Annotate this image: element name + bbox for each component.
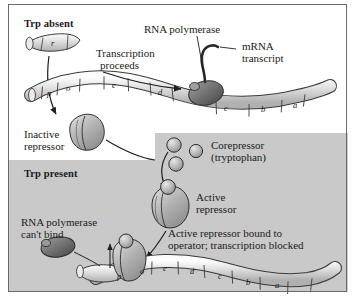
- gene-label-top-e: e: [112, 80, 116, 90]
- active-repressor-label-line2: repressor: [196, 204, 236, 216]
- gene-label-bottom-e: e: [163, 263, 167, 273]
- leader-mrna-label: [220, 47, 236, 49]
- transcription-proceeds-label-line2: proceeds: [100, 60, 139, 72]
- mrna-transcript-label-line1: mRNA: [242, 41, 274, 53]
- gene-label-bottom-a: a: [275, 280, 279, 290]
- figure-canvas: Trp absent Transcription proceeds RNA po…: [0, 0, 356, 307]
- line-inactive-repressor-to-corepressor: [106, 140, 155, 160]
- bound-note-line1: Active repressor bound to: [168, 228, 282, 240]
- corepressor-molecules: [167, 138, 203, 171]
- gene-label-bottom-d: d: [190, 266, 194, 276]
- leader-polymerase-label: [197, 36, 205, 80]
- bound-note-line2: operator; transcription blocked: [168, 240, 304, 252]
- gene-label-bottom-o: o: [140, 266, 144, 276]
- inactive-repressor-shape: [70, 114, 104, 150]
- gene-label-regulatory-r: r: [51, 38, 54, 48]
- dna-strand-top: [29, 76, 330, 116]
- arrow-active-repressor-to-operator: [146, 231, 166, 258]
- gene-label-bottom-p: p: [117, 271, 121, 281]
- gene-label-top-b: b: [261, 104, 265, 114]
- gene-label-bottom-b: b: [246, 277, 250, 287]
- trp-absent-header: Trp absent: [24, 18, 74, 29]
- corepressor-label-line2: (tryptophan): [211, 152, 266, 164]
- gene-label-top-a: a: [293, 100, 297, 110]
- gene-label-top-c: c: [224, 103, 228, 113]
- polymerase-cannot-bind-line2: can't bind: [21, 229, 64, 241]
- active-repressor-label-line1: Active: [196, 192, 225, 204]
- transcription-proceeds-label-line1: Transcription: [96, 48, 155, 60]
- corepressor-label-line1: Corepressor: [211, 140, 264, 152]
- gene-label-bottom-c: c: [218, 271, 222, 281]
- rna-polymerase-label: RNA polymerase: [144, 24, 220, 36]
- inactive-repressor-label-line2: repressor: [24, 141, 64, 153]
- gene-label-top-p: p: [47, 88, 51, 98]
- mrna-transcript-label-line2: transcript: [242, 53, 284, 65]
- gene-label-top-d: d: [158, 87, 162, 97]
- line-polymerase-to-promoter: [74, 252, 100, 266]
- inactive-repressor-label-line1: Inactive: [24, 129, 59, 141]
- polymerase-cannot-bind-line1: RNA polymerase: [21, 217, 97, 229]
- gene-label-top-o: o: [66, 83, 70, 93]
- active-repressor-shape: [152, 180, 189, 228]
- trp-present-header: Trp present: [24, 168, 78, 179]
